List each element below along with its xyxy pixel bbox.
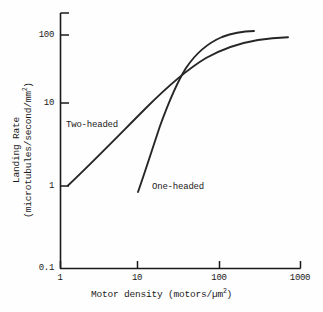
- y-axis-ticks: [61, 13, 70, 186]
- y-axis-title-line2-tail: ): [23, 82, 34, 88]
- x-axis-title: Motor density (motors/µm2): [0, 289, 323, 300]
- y-axis-title-line2-text: (microtubules/second/mm: [23, 91, 34, 218]
- curve-label-two-headed: Two-headed: [66, 120, 118, 130]
- y-axis-title: Landing Rate (microtubules/second/mm2): [11, 35, 35, 265]
- curve-label-one-headed: One-headed: [152, 182, 204, 192]
- chart-figure: 100 10 1 0.1 1 10 100 1000 Two-headed On…: [0, 0, 323, 312]
- x-tick-label-1: 1: [57, 273, 62, 283]
- x-axis-title-tail: ): [227, 289, 233, 300]
- x-tick-label-100: 100: [211, 273, 226, 283]
- x-tick-label-1000: 1000: [290, 273, 310, 283]
- curve-one-headed: [138, 31, 254, 192]
- x-tick-label-10: 10: [132, 273, 142, 283]
- x-axis-ticks: [61, 261, 301, 269]
- y-axis-title-superscript: 2: [22, 88, 29, 92]
- y-axis-title-line2: (microtubules/second/mm2): [23, 35, 35, 265]
- x-axis-title-text: Motor density (motors/µm: [91, 289, 223, 300]
- curve-two-headed: [68, 37, 288, 185]
- y-axis-title-line1: Landing Rate: [11, 35, 23, 265]
